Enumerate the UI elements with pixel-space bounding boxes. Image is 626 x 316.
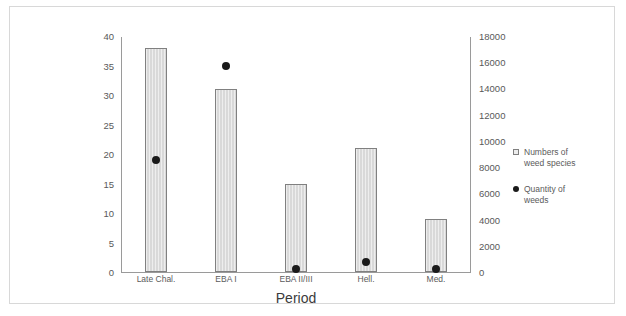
chart-legend: Numbers of weed species Quantity of weed… bbox=[513, 147, 613, 221]
x-axis-title: Period bbox=[121, 290, 471, 306]
right-axis-line bbox=[470, 37, 471, 273]
category-label: EBA II/III bbox=[279, 274, 312, 284]
legend-item-weed-species: Numbers of weed species bbox=[513, 147, 613, 170]
data-point-dot bbox=[152, 156, 160, 164]
bar bbox=[355, 148, 377, 272]
legend-label-line2: weed species bbox=[524, 158, 576, 168]
plot-area: 0510152025303540 02000400060008000100001… bbox=[121, 37, 471, 273]
bar bbox=[425, 219, 447, 272]
right-axis-tick-label: 10000 bbox=[479, 137, 505, 147]
left-axis-line bbox=[121, 37, 122, 273]
right-axis-tick-label: 16000 bbox=[479, 58, 505, 68]
right-axis-tick-label: 14000 bbox=[479, 85, 505, 95]
right-axis-tick-label: 2000 bbox=[479, 242, 500, 252]
left-axis-tick-label: 30 bbox=[103, 91, 114, 101]
data-point-dot bbox=[432, 265, 440, 273]
bar bbox=[285, 184, 307, 273]
chart-frame: 0510152025303540 02000400060008000100001… bbox=[9, 6, 615, 304]
left-axis-tick-label: 20 bbox=[103, 150, 114, 160]
left-axis-tick-label: 40 bbox=[103, 32, 114, 42]
right-axis-tick-label: 0 bbox=[479, 268, 484, 278]
category-label: Hell. bbox=[357, 274, 374, 284]
left-axis-tick-label: 10 bbox=[103, 209, 114, 219]
legend-item-weed-quantity: Quantity of weeds bbox=[513, 184, 613, 207]
left-axis-tick-label: 5 bbox=[109, 239, 114, 249]
right-axis-tick-label: 4000 bbox=[479, 216, 500, 226]
left-axis-tick-label: 15 bbox=[103, 180, 114, 190]
data-point-dot bbox=[292, 265, 300, 273]
left-axis-tick-label: 0 bbox=[109, 268, 114, 278]
left-axis-tick-label: 25 bbox=[103, 121, 114, 131]
legend-label-line1: Quantity of bbox=[524, 184, 565, 194]
bar bbox=[215, 89, 237, 272]
data-point-dot bbox=[222, 62, 230, 70]
right-axis-tick-label: 8000 bbox=[479, 163, 500, 173]
legend-label-line2: weeds bbox=[524, 195, 549, 205]
square-marker-icon bbox=[513, 149, 519, 155]
right-axis-tick-label: 6000 bbox=[479, 190, 500, 200]
right-axis-tick-label: 12000 bbox=[479, 111, 505, 121]
category-label: Med. bbox=[427, 274, 446, 284]
legend-label-line1: Numbers of bbox=[524, 147, 568, 157]
right-axis-tick-label: 18000 bbox=[479, 32, 505, 42]
data-point-dot bbox=[362, 258, 370, 266]
category-label: Late Chal. bbox=[137, 274, 176, 284]
left-axis-tick-label: 35 bbox=[103, 62, 114, 72]
category-label: EBA I bbox=[215, 274, 236, 284]
dot-marker-icon bbox=[513, 186, 519, 192]
